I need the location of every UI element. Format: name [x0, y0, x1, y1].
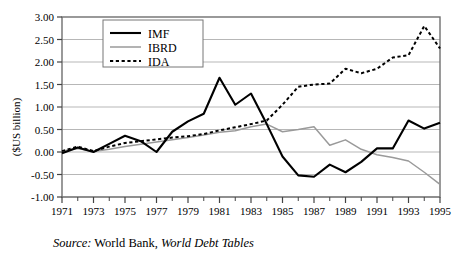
y-axis-tick-label: -0.50 — [31, 169, 54, 181]
y-axis-title-text: ($US billion) — [10, 52, 22, 202]
legend: IMFIBRDIDA — [103, 20, 203, 69]
x-axis-tick-label: 1973 — [83, 205, 106, 217]
source-label: Source: — [53, 236, 91, 250]
source-organization: World Bank, — [91, 236, 161, 250]
source-publication: World Debt Tables — [161, 236, 254, 250]
figure-container: -1.00-0.500.000.501.001.502.002.503.0019… — [0, 0, 459, 262]
y-axis-tick-label: 0.50 — [35, 124, 55, 136]
legend-label-ibrd: IBRD — [148, 41, 177, 55]
legend-label-ida: IDA — [148, 55, 170, 69]
line-chart: -1.00-0.500.000.501.001.502.002.503.0019… — [0, 0, 459, 262]
legend-label-imf: IMF — [148, 27, 170, 41]
y-axis-tick-label: 0.00 — [35, 146, 55, 158]
x-axis-tick-label: 1975 — [114, 205, 137, 217]
y-axis-tick-label: 2.50 — [35, 34, 55, 46]
y-axis-tick-label: 3.00 — [35, 11, 55, 23]
y-axis-tick-label: 2.00 — [35, 56, 55, 68]
x-axis-tick-label: 1995 — [429, 205, 452, 217]
source-note: Source: World Bank, World Debt Tables — [53, 236, 254, 251]
x-axis-tick-label: 1979 — [177, 205, 200, 217]
x-axis-tick-label: 1977 — [146, 205, 169, 217]
x-axis-tick-label: 1985 — [272, 205, 295, 217]
y-axis-tick-label: 1.50 — [35, 79, 55, 91]
series-line-ibrd — [62, 124, 440, 184]
y-axis: -1.00-0.500.000.501.001.502.002.503.00 — [31, 11, 62, 203]
x-axis-tick-label: 1987 — [303, 205, 326, 217]
x-axis-tick-label: 1989 — [335, 205, 358, 217]
y-axis-tick-label: -1.00 — [31, 191, 54, 203]
y-axis-tick-label: 1.00 — [35, 101, 55, 113]
x-axis-tick-label: 1971 — [51, 205, 73, 217]
x-axis-tick-label: 1981 — [209, 205, 231, 217]
x-axis: 1971197319751977197919811983198519871989… — [51, 197, 452, 217]
x-axis-tick-label: 1993 — [398, 205, 421, 217]
x-axis-tick-label: 1991 — [366, 205, 388, 217]
x-axis-tick-label: 1983 — [240, 205, 263, 217]
